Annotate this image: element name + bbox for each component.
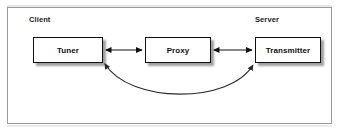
figure-screenshot: Client Server Tuner Proxy Transmitter [0,0,344,136]
node-label-tuner: Tuner [57,46,79,55]
node-box-tuner: Tuner [33,37,103,63]
node-box-proxy: Proxy [145,37,211,63]
zone-label-client: Client [29,15,50,24]
zone-label-server: Server [255,15,279,24]
node-box-transmitter: Transmitter [255,37,321,63]
figure-frame [7,7,332,124]
node-label-proxy: Proxy [167,46,190,55]
scan-edge-bottom [7,125,332,127]
node-label-transmitter: Transmitter [266,46,311,55]
